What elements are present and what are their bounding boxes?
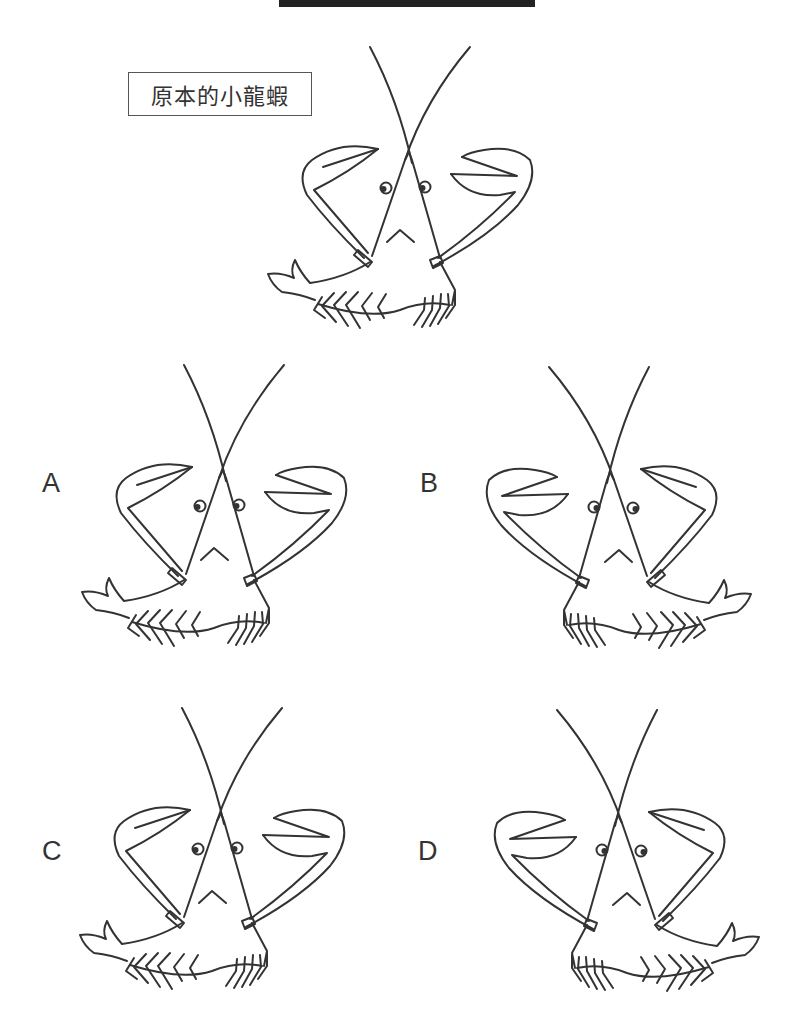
option-d-crayfish[interactable] xyxy=(495,710,759,991)
option-a-crayfish[interactable] xyxy=(82,365,346,646)
option-c-crayfish[interactable] xyxy=(80,708,344,989)
original-crayfish xyxy=(268,47,532,328)
crayfish-drawings xyxy=(0,0,797,1035)
option-b-crayfish[interactable] xyxy=(487,367,751,648)
